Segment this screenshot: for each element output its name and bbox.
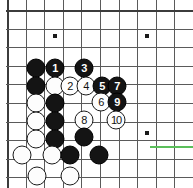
stone-move-number: 9 (114, 97, 120, 108)
stone-move-number: 4 (83, 81, 89, 92)
stone-white (61, 167, 80, 186)
grid-line-horizontal (6, 10, 193, 12)
stone-black (61, 146, 80, 165)
stone-move-number: 1 (52, 63, 58, 74)
stone-black (46, 112, 65, 131)
stone-white (27, 130, 46, 149)
stone-move-number: 10 (111, 115, 121, 126)
stone-black-move-9: 9 (108, 93, 127, 112)
stone-move-number: 5 (99, 81, 105, 92)
stone-move-number: 8 (81, 115, 87, 126)
stone-move-number: 6 (98, 97, 104, 108)
stone-black (75, 128, 94, 147)
stone-white-move-10: 10 (107, 111, 126, 130)
stone-white (27, 94, 46, 113)
grid-line-horizontal (6, 29, 193, 30)
stone-white (43, 146, 62, 165)
star-point (145, 131, 149, 135)
stone-move-number: 3 (81, 63, 87, 74)
stone-black (27, 59, 46, 78)
stone-white (27, 112, 46, 131)
stone-move-number: 7 (114, 81, 120, 92)
grid-line-horizontal (6, 47, 193, 48)
stone-white (28, 167, 47, 186)
stone-black-move-3: 3 (75, 59, 94, 78)
green-highlight-line (150, 146, 193, 148)
go-board-diagram: 13245769810 (0, 0, 193, 188)
stone-white (13, 146, 32, 165)
stone-move-number: 2 (67, 81, 73, 92)
stone-black-move-1: 1 (46, 59, 65, 78)
star-point (145, 34, 149, 38)
stone-black (90, 146, 109, 165)
stone-black (46, 94, 65, 113)
star-point (53, 34, 57, 38)
